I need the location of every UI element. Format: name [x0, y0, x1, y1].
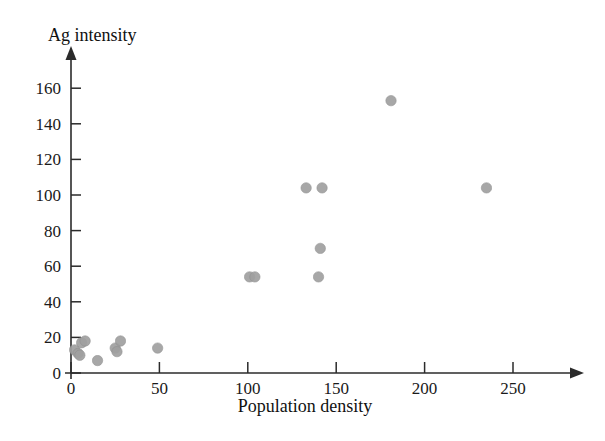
- data-points-group: [69, 95, 491, 365]
- data-point: [386, 95, 396, 105]
- y-tick-label: 60: [44, 257, 61, 276]
- data-point: [313, 272, 323, 282]
- data-point: [250, 272, 260, 282]
- data-point: [115, 336, 125, 346]
- y-tick-label: 0: [53, 364, 62, 383]
- data-point: [481, 183, 491, 193]
- y-tick-label: 40: [44, 293, 61, 312]
- axes-group: [65, 46, 584, 379]
- data-point: [92, 355, 102, 365]
- x-tick-label: 150: [323, 379, 349, 398]
- y-axis-ticks: 020406080100120140160: [36, 79, 82, 383]
- data-point: [80, 336, 90, 346]
- x-tick-label: 0: [67, 379, 76, 398]
- x-axis-arrow-icon: [570, 368, 584, 379]
- y-tick-label: 20: [44, 328, 61, 347]
- data-point: [75, 350, 85, 360]
- scatter-plot-svg: Ag intensity Population density 02040608…: [0, 0, 605, 441]
- y-tick-label: 80: [44, 222, 61, 241]
- scatter-plot-figure: Ag intensity Population density 02040608…: [0, 0, 605, 441]
- y-tick-label: 160: [36, 79, 62, 98]
- y-tick-label: 140: [36, 115, 62, 134]
- x-axis-title: Population density: [238, 396, 373, 416]
- data-point: [315, 243, 325, 253]
- y-tick-label: 100: [36, 186, 62, 205]
- x-tick-label: 250: [500, 379, 526, 398]
- x-tick-label: 200: [412, 379, 438, 398]
- x-tick-label: 50: [151, 379, 168, 398]
- x-axis-ticks: 050100150200250: [67, 362, 526, 398]
- data-point: [301, 183, 311, 193]
- data-point: [152, 343, 162, 353]
- data-point: [317, 183, 327, 193]
- y-axis-title: Ag intensity: [48, 25, 137, 45]
- y-tick-label: 120: [36, 150, 62, 169]
- y-axis-arrow-icon: [66, 46, 77, 60]
- data-point: [112, 346, 122, 356]
- x-tick-label: 100: [235, 379, 261, 398]
